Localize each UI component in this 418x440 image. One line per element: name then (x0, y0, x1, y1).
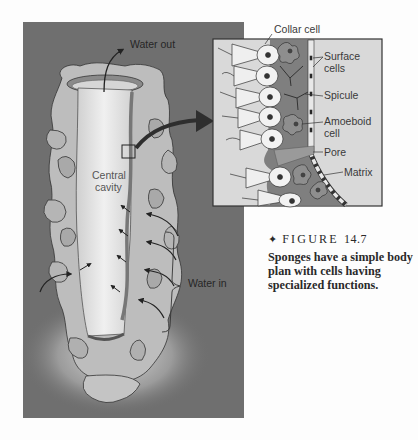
figure-caption: ✦ FIGURE 14.7 Sponges have a simple body… (268, 232, 418, 292)
label-amoeboid-2: cell (324, 128, 340, 139)
label-central-cavity-2: cavity (95, 182, 122, 193)
label-water-in: Water in (188, 278, 227, 289)
label-spicule: Spicule (324, 90, 358, 101)
label-amoeboid-1: Amoeboid (324, 116, 371, 127)
figure-title: ✦ FIGURE 14.7 (268, 232, 418, 247)
label-surface-cells-2: cells (324, 63, 345, 74)
figure-label: FIGURE (282, 232, 339, 246)
label-central-cavity-1: Central (92, 170, 126, 181)
label-pore: Pore (324, 147, 346, 158)
label-surface-cells-1: Surface (324, 51, 360, 62)
central-cavity (76, 88, 132, 336)
sponge-illustration (0, 0, 418, 440)
diamond-bullet-icon: ✦ (268, 233, 277, 245)
caption-text: Sponges have a simple body plan with cel… (268, 250, 418, 292)
label-water-out: Water out (130, 39, 175, 50)
label-collar-cell: Collar cell (274, 24, 320, 35)
label-matrix: Matrix (344, 167, 373, 178)
figure-number: 14.7 (344, 232, 367, 246)
